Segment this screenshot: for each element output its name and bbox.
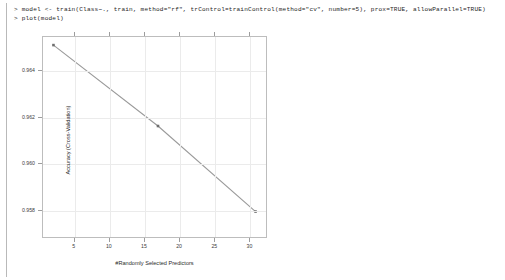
gridline-horizontal — [43, 211, 266, 212]
console-command-plot: > plot(model) — [14, 15, 64, 23]
y-tick-mark — [38, 163, 42, 164]
x-tick-mark-top — [109, 32, 110, 36]
y-tick-mark — [38, 210, 42, 211]
x-tick-label: 25 — [211, 243, 217, 249]
r-plot-device: 51015202530 0.9580.9600.9620.964 #Random… — [8, 28, 298, 280]
x-tick-label: 30 — [247, 243, 253, 249]
y-tick-label: 0.958 — [8, 207, 35, 213]
x-tick-label: 10 — [106, 243, 112, 249]
x-axis-title: #Randomly Selected Predictors — [42, 260, 267, 266]
y-axis-title: Accuracy (Cross-Validation) — [65, 39, 71, 241]
x-tick-mark — [109, 238, 110, 242]
x-tick-label: 5 — [72, 243, 75, 249]
y-tick-mark — [38, 117, 42, 118]
accuracy-points — [52, 44, 257, 213]
x-tick-mark-top — [179, 32, 180, 36]
gridline-vertical — [250, 37, 251, 237]
x-tick-label: 15 — [141, 243, 147, 249]
console-command-train: > model <- train(Class~., train, method=… — [14, 6, 486, 14]
gridline-vertical — [75, 37, 76, 237]
y-tick-label: 0.964 — [8, 67, 35, 73]
x-tick-mark — [249, 238, 250, 242]
x-tick-label: 20 — [176, 243, 182, 249]
y-tick-mark — [38, 70, 42, 71]
r-console-pane[interactable]: > model <- train(Class~., train, method=… — [0, 0, 505, 28]
y-tick-label: 0.962 — [8, 114, 35, 120]
x-tick-mark — [144, 238, 145, 242]
x-tick-mark-top — [249, 32, 250, 36]
y-tick-label: 0.960 — [8, 160, 35, 166]
gridline-vertical — [110, 37, 111, 237]
gridline-horizontal — [43, 118, 266, 119]
accuracy-series — [43, 37, 266, 237]
x-tick-mark-top — [144, 32, 145, 36]
x-tick-mark — [214, 238, 215, 242]
x-tick-mark-top — [74, 32, 75, 36]
plot-panel — [42, 36, 267, 238]
x-tick-mark-top — [214, 32, 215, 36]
data-point — [52, 44, 55, 47]
gridline-vertical — [145, 37, 146, 237]
x-tick-mark — [179, 238, 180, 242]
gridline-horizontal — [43, 164, 266, 165]
gridline-horizontal — [43, 71, 266, 72]
x-tick-mark — [74, 238, 75, 242]
gridline-vertical — [180, 37, 181, 237]
console-left-rule — [6, 3, 7, 277]
gridline-vertical — [215, 37, 216, 237]
data-point — [157, 125, 160, 128]
